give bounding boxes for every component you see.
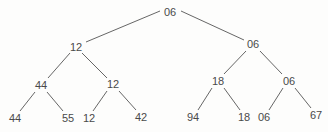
tree-edge bbox=[269, 88, 283, 110]
tree-edge bbox=[93, 91, 107, 111]
tree-node: 12 bbox=[107, 79, 119, 90]
tree-node: 18 bbox=[238, 112, 250, 123]
tree-node: 06 bbox=[283, 76, 295, 87]
tree-edge bbox=[198, 88, 212, 110]
tree-edge bbox=[119, 91, 136, 110]
tree-node: 94 bbox=[187, 112, 199, 123]
tree-edge bbox=[295, 88, 311, 108]
tree-edge bbox=[260, 51, 282, 74]
tree-edge bbox=[224, 88, 240, 110]
tree-node: 44 bbox=[9, 113, 21, 124]
tree-edge bbox=[47, 92, 63, 111]
tree-node: 12 bbox=[83, 113, 95, 124]
tree-edges bbox=[0, 0, 328, 132]
tree-edge bbox=[48, 53, 70, 78]
tree-node: 42 bbox=[135, 112, 147, 123]
tree-node: 55 bbox=[62, 113, 74, 124]
tree-node: 44 bbox=[35, 80, 47, 91]
tree-node: 06 bbox=[247, 39, 259, 50]
tree-node: 06 bbox=[258, 112, 270, 123]
tree-node: 18 bbox=[212, 76, 224, 87]
tree-node: 12 bbox=[70, 42, 82, 53]
tree-edge bbox=[20, 92, 35, 111]
tree-node: 67 bbox=[310, 110, 322, 121]
tree-edge bbox=[224, 51, 246, 74]
tree-edge bbox=[181, 11, 244, 40]
tree-node: 06 bbox=[164, 7, 176, 18]
tree-edge bbox=[86, 11, 160, 42]
tree-edge bbox=[82, 53, 107, 78]
